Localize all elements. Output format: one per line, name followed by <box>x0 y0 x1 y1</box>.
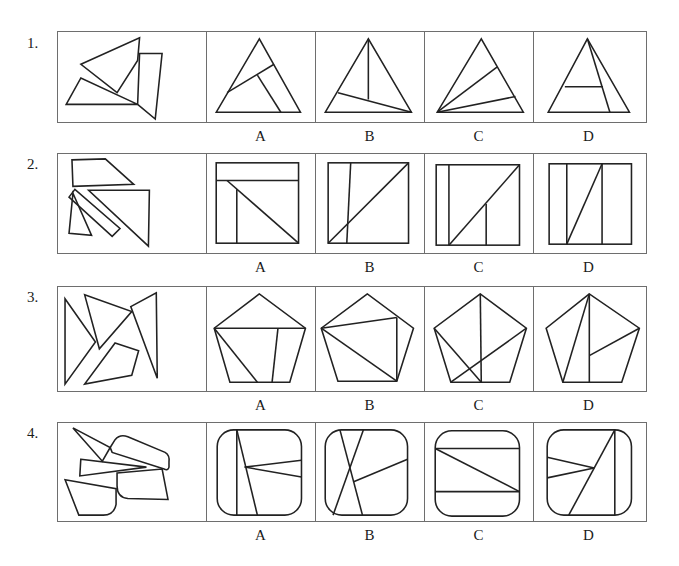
q2-pieces-figure <box>58 154 206 253</box>
question-4-row <box>57 422 647 522</box>
q1-option-c-figure <box>425 32 534 122</box>
q4-pieces-figure <box>58 423 206 521</box>
q4-given-pieces <box>58 423 206 521</box>
question-2-row <box>57 153 647 254</box>
q2-option-b-figure <box>316 154 424 253</box>
q3-given-pieces <box>58 287 206 391</box>
q3-option-c[interactable] <box>424 287 534 391</box>
q4-label-a: A <box>206 527 315 544</box>
q1-given-pieces <box>58 32 206 122</box>
q3-option-d-figure <box>534 287 646 391</box>
q2-label-b: B <box>315 259 424 276</box>
q3-label-b: B <box>315 397 424 414</box>
q1-option-b[interactable] <box>315 32 424 122</box>
q4-option-d[interactable] <box>533 423 646 521</box>
question-1-row <box>57 31 647 123</box>
q2-label-d: D <box>534 259 643 276</box>
q4-label-d: D <box>534 527 643 544</box>
q4-option-c-figure <box>425 423 534 521</box>
q1-label-a: A <box>206 128 315 145</box>
q1-label-c: C <box>424 128 533 145</box>
q3-label-c: C <box>424 397 533 414</box>
q4-option-c[interactable] <box>424 423 534 521</box>
q1-option-c[interactable] <box>424 32 534 122</box>
q1-label-d: D <box>534 128 643 145</box>
question-number-2: 2. <box>27 156 38 173</box>
q3-option-a-figure <box>207 287 315 391</box>
q2-option-c[interactable] <box>424 154 534 253</box>
question-3-row <box>57 286 647 392</box>
q4-option-d-figure <box>534 423 646 521</box>
q3-option-b[interactable] <box>315 287 424 391</box>
q2-option-b[interactable] <box>315 154 424 253</box>
q1-option-a-figure <box>207 32 315 122</box>
q4-option-a-figure <box>207 423 315 521</box>
q2-option-d-figure <box>534 154 646 253</box>
q2-label-c: C <box>424 259 533 276</box>
question-number-1: 1. <box>27 35 38 52</box>
q4-label-c: C <box>424 527 533 544</box>
q1-label-b: B <box>315 128 424 145</box>
q1-option-b-figure <box>316 32 424 122</box>
q4-option-b-figure <box>316 423 424 521</box>
q1-pieces-figure <box>58 32 206 122</box>
q2-option-c-figure <box>425 154 534 253</box>
q2-label-a: A <box>206 259 315 276</box>
q2-option-d[interactable] <box>533 154 646 253</box>
q2-option-a-figure <box>207 154 315 253</box>
q3-option-b-figure <box>316 287 424 391</box>
q3-option-c-figure <box>425 287 534 391</box>
q3-option-d[interactable] <box>533 287 646 391</box>
q1-option-a[interactable] <box>206 32 315 122</box>
q1-option-d[interactable] <box>533 32 646 122</box>
q2-given-pieces <box>58 154 206 253</box>
q3-option-a[interactable] <box>206 287 315 391</box>
q3-label-d: D <box>534 397 643 414</box>
q4-label-b: B <box>315 527 424 544</box>
q3-label-a: A <box>206 397 315 414</box>
q2-option-a[interactable] <box>206 154 315 253</box>
q4-option-b[interactable] <box>315 423 424 521</box>
q3-pieces-figure <box>58 287 206 391</box>
q4-option-a[interactable] <box>206 423 315 521</box>
question-number-4: 4. <box>27 425 38 442</box>
q1-option-d-figure <box>534 32 646 122</box>
question-number-3: 3. <box>27 289 38 306</box>
